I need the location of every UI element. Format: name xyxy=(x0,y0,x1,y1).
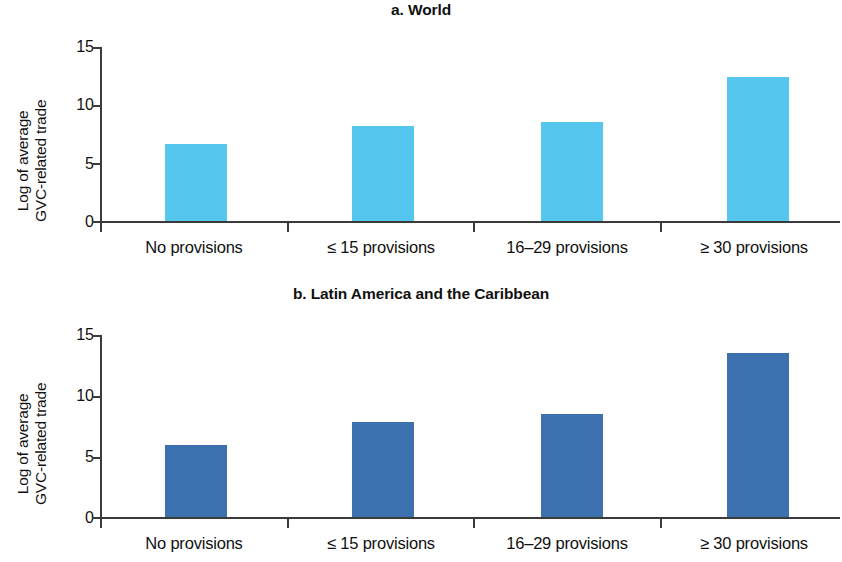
panel-b-y-axis-title-line2: GVC-related trade xyxy=(32,383,50,505)
panel-a-xcat-label-3: ≥ 30 provisions xyxy=(666,238,842,257)
chart-panel-world: a. World Log of average GVC-related trad… xyxy=(0,0,842,281)
bar-lac-16-29-provisions[interactable] xyxy=(541,414,603,517)
panel-b-xtick-2 xyxy=(473,519,475,528)
panel-b-ytick-label-10: 10 xyxy=(62,388,94,404)
panel-b-xtick-1 xyxy=(287,519,289,528)
panel-a-ytick-10 xyxy=(92,105,100,107)
panel-b-ytick-label-5: 5 xyxy=(62,449,94,465)
panel-b-y-axis xyxy=(100,335,102,519)
panel-a-ytick-0 xyxy=(92,221,100,223)
panel-a-xcat-label-0: No provisions xyxy=(106,238,282,257)
panel-a-x-axis xyxy=(100,221,840,223)
panel-a-y-axis-title-line2: GVC-related trade xyxy=(32,100,50,222)
panel-b-xcat-label-2: 16–29 provisions xyxy=(479,534,655,553)
panel-b-y-axis-title-line1: Log of average xyxy=(14,383,32,505)
panel-a-ytick-5 xyxy=(92,163,100,165)
panel-b-ytick-10 xyxy=(92,396,100,398)
panel-b-ytick-0 xyxy=(92,517,100,519)
panel-a-y-axis xyxy=(100,47,102,223)
bar-lac-ge-30-provisions[interactable] xyxy=(727,353,789,517)
figure-container: a. World Log of average GVC-related trad… xyxy=(0,0,842,562)
panel-b-ytick-label-15: 15 xyxy=(62,327,94,343)
panel-b-x-axis xyxy=(100,517,840,519)
panel-a-title: a. World xyxy=(0,1,842,19)
panel-a-xcat-label-1: ≤ 15 provisions xyxy=(293,238,469,257)
panel-a-xtick-0 xyxy=(100,223,102,232)
bar-world-no-provisions[interactable] xyxy=(165,144,227,221)
panel-a-xtick-1 xyxy=(287,223,289,232)
panel-a-ytick-label-0: 0 xyxy=(62,214,94,230)
panel-b-ytick-15 xyxy=(92,335,100,337)
bar-world-16-29-provisions[interactable] xyxy=(541,122,603,221)
panel-b-ytick-label-0: 0 xyxy=(62,510,94,526)
panel-a-ytick-15 xyxy=(92,47,100,49)
panel-b-ytick-5 xyxy=(92,457,100,459)
panel-b-xcat-label-1: ≤ 15 provisions xyxy=(293,534,469,553)
bar-world-le-15-provisions[interactable] xyxy=(352,126,414,221)
panel-b-xtick-0 xyxy=(100,519,102,528)
panel-a-ytick-label-5: 5 xyxy=(62,156,94,172)
panel-a-y-axis-title: Log of average GVC-related trade xyxy=(14,100,50,222)
panel-a-y-axis-title-line1: Log of average xyxy=(14,100,32,222)
panel-b-y-axis-title: Log of average GVC-related trade xyxy=(14,383,50,505)
panel-a-xtick-2 xyxy=(473,223,475,232)
panel-b-xtick-3 xyxy=(660,519,662,528)
bar-lac-no-provisions[interactable] xyxy=(165,445,227,517)
panel-b-title: b. Latin America and the Caribbean xyxy=(0,285,842,303)
panel-a-ytick-label-15: 15 xyxy=(62,39,94,55)
bar-world-ge-30-provisions[interactable] xyxy=(727,77,789,221)
panel-a-ytick-label-10: 10 xyxy=(62,97,94,113)
panel-b-xcat-label-0: No provisions xyxy=(106,534,282,553)
panel-b-xcat-label-3: ≥ 30 provisions xyxy=(666,534,842,553)
panel-a-xcat-label-2: 16–29 provisions xyxy=(479,238,655,257)
panel-a-xtick-3 xyxy=(660,223,662,232)
chart-panel-latin-america-caribbean: b. Latin America and the Caribbean Log o… xyxy=(0,281,842,562)
bar-lac-le-15-provisions[interactable] xyxy=(352,422,414,517)
